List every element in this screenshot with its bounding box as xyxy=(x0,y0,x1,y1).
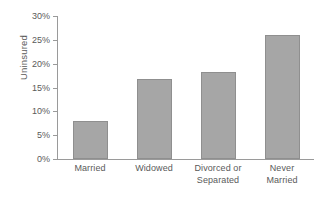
x-axis-tick-label: Married xyxy=(58,163,122,175)
x-axis-tick-label: Divorced orSeparated xyxy=(186,163,250,186)
bar xyxy=(201,72,236,159)
x-axis-tick-label-line: Widowed xyxy=(122,163,186,175)
y-axis-tick-label: 20% xyxy=(18,59,50,68)
bar xyxy=(265,35,300,159)
x-axis-tick-label: NeverMarried xyxy=(250,163,314,186)
bar xyxy=(73,121,108,159)
y-axis-tick-label: 0% xyxy=(18,155,50,164)
x-axis-tick-label-line: Divorced or xyxy=(186,163,250,175)
x-axis-tick-label-line: Married xyxy=(250,175,314,187)
y-axis-tick-label: 5% xyxy=(18,131,50,140)
y-axis-tick-labels: 0%5%10%15%20%25%30% xyxy=(18,0,50,198)
y-axis-tick-label: 10% xyxy=(18,107,50,116)
bar-chart: Uninsured 0%5%10%15%20%25%30% MarriedWid… xyxy=(0,0,324,198)
x-axis-tick-labels: MarriedWidowedDivorced orSeparatedNeverM… xyxy=(58,163,314,197)
x-axis-tick-label-line: Separated xyxy=(186,175,250,187)
y-axis-tick-label: 30% xyxy=(18,12,50,21)
plot-area xyxy=(58,16,314,159)
x-axis-tick-label-line: Married xyxy=(58,163,122,175)
x-axis-tick-label-line: Never xyxy=(250,163,314,175)
y-axis-tick-label: 25% xyxy=(18,35,50,44)
x-axis-tick-label: Widowed xyxy=(122,163,186,175)
x-axis-line xyxy=(57,159,314,160)
bar xyxy=(137,79,172,159)
y-axis-tick-label: 15% xyxy=(18,83,50,92)
